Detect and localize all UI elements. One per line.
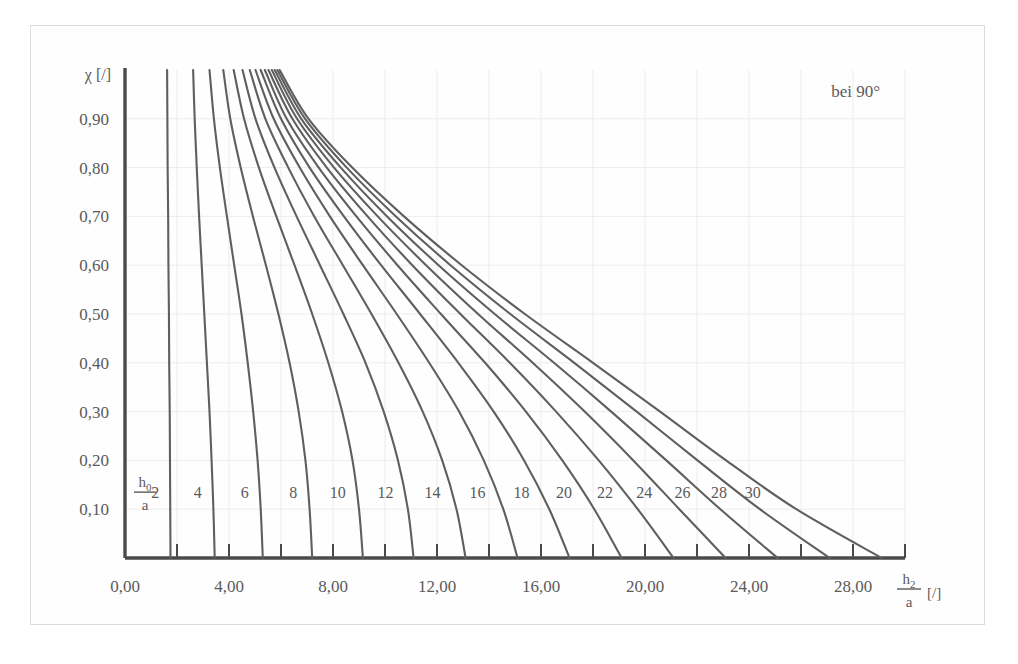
x-axis-title-numerator: h2 <box>903 571 916 590</box>
chart-plot: 0,004,008,0012,0016,0020,0024,0028,00 0,… <box>0 0 1018 664</box>
x-tick-label: 28,00 <box>834 577 872 596</box>
y-tick-label: 0,40 <box>79 354 109 373</box>
chart-stage: 0,004,008,0012,0016,0020,0024,0028,00 0,… <box>0 0 1018 664</box>
curve-label: 28 <box>711 484 727 501</box>
x-tick-label: 4,00 <box>214 577 244 596</box>
x-tick-label: 12,00 <box>418 577 456 596</box>
y-tick-label: 0,20 <box>79 451 109 470</box>
y-tick-label: 0,70 <box>79 207 109 226</box>
curve-label: 8 <box>289 484 297 501</box>
x-tick-label: 16,00 <box>522 577 560 596</box>
curve-label: 18 <box>513 484 529 501</box>
x-axis-title-denominator: a <box>906 594 913 610</box>
curve-label: 16 <box>469 484 485 501</box>
x-axis-title-unit: [/] <box>927 585 941 601</box>
x-tick-label: 20,00 <box>626 577 664 596</box>
y-axis-title: χ [/] <box>84 66 111 84</box>
curve-label: 24 <box>636 484 652 501</box>
y-tick-label: 0,90 <box>79 110 109 129</box>
curve-label: 20 <box>556 484 572 501</box>
annotations-group: χ [/]h2a[/]h0abei 90° <box>84 66 941 610</box>
curve-label: 26 <box>674 484 690 501</box>
angle-annotation: bei 90° <box>831 82 880 101</box>
curve-family-numerator: h0 <box>139 474 153 493</box>
x-tick-labels-group: 0,004,008,0012,0016,0020,0024,0028,00 <box>110 577 872 596</box>
y-tick-label: 0,10 <box>79 500 109 519</box>
y-tick-label: 0,80 <box>79 159 109 178</box>
x-tick-label: 0,00 <box>110 577 140 596</box>
y-tick-label: 0,30 <box>79 403 109 422</box>
y-tick-labels-group: 0,100,200,300,400,500,600,700,800,90 <box>79 110 109 519</box>
y-tick-label: 0,50 <box>79 305 109 324</box>
x-tick-label: 8,00 <box>318 577 348 596</box>
curve-family-denominator: a <box>142 497 149 513</box>
curve-label: 22 <box>597 484 613 501</box>
curve-label: 4 <box>194 484 202 501</box>
x-tick-label: 24,00 <box>730 577 768 596</box>
curve-label: 10 <box>330 484 346 501</box>
curve-label: 6 <box>241 484 249 501</box>
curve-label: 30 <box>745 484 761 501</box>
curve-label: 12 <box>377 484 393 501</box>
y-tick-label: 0,60 <box>79 256 109 275</box>
curve-label: 14 <box>424 484 440 501</box>
